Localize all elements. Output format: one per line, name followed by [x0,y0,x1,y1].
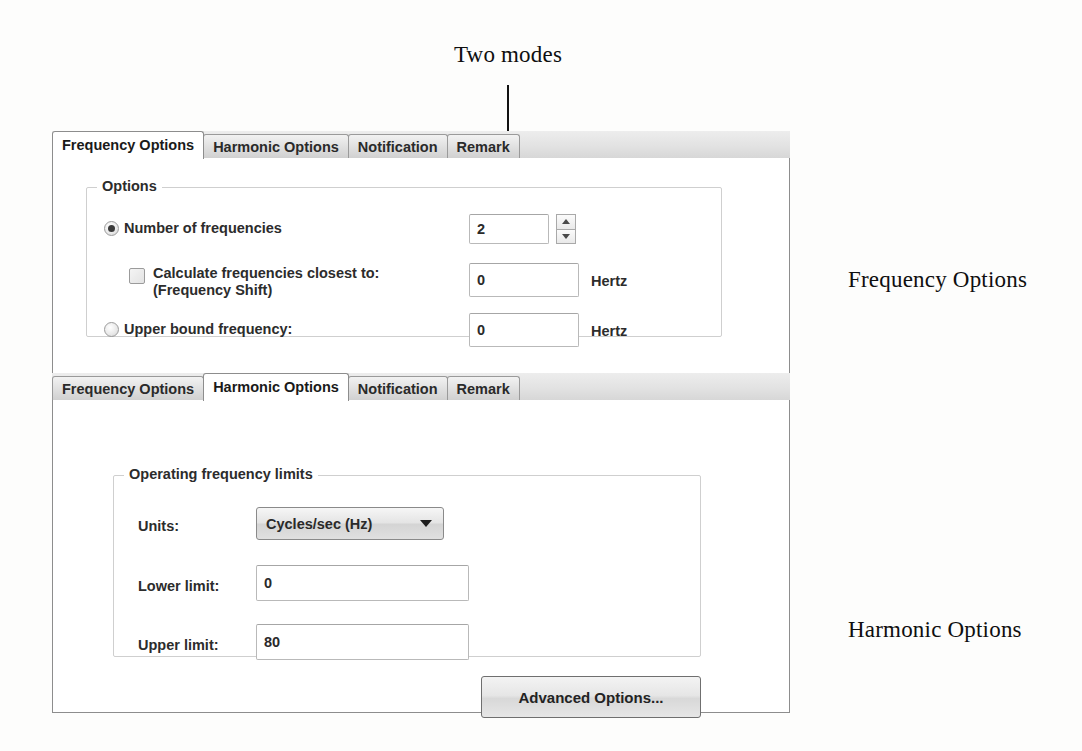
chevron-up-icon [562,219,570,224]
annotation-two-modes: Two modes [454,42,562,68]
frequency-options-dialog-panel: Frequency Options Harmonic Options Notif… [52,131,790,373]
radio-selected-dot [108,225,115,232]
tab-notification[interactable]: Notification [348,376,448,401]
frequency-panel-tabstrip: Frequency Options Harmonic Options Notif… [52,131,790,159]
units-dropdown[interactable]: Cycles/sec (Hz) [256,507,444,540]
operating-frequency-limits-title: Operating frequency limits [124,466,318,482]
harmonic-panel-body: Operating frequency limits Units: Cycles… [52,400,790,713]
checkbox-calculate-frequencies-closest-to[interactable] [129,268,145,284]
harmonic-options-dialog-panel: Frequency Options Harmonic Options Notif… [52,373,790,713]
label-line-1: Calculate frequencies closest to: [153,265,379,281]
tab-frequency-options[interactable]: Frequency Options [52,376,204,401]
tab-notification[interactable]: Notification [348,134,448,159]
number-of-frequencies-spinner[interactable] [556,214,576,244]
spinner-increment-button[interactable] [556,214,576,230]
label-line-2: (Frequency Shift) [153,282,272,298]
label-upper-bound-frequency: Upper bound frequency: [124,321,292,338]
tabstrip-filler [519,375,790,401]
annotation-frequency-options: Frequency Options [848,267,1027,293]
options-groupbox-title: Options [97,178,162,194]
annotation-harmonic-options: Harmonic Options [848,617,1022,643]
tab-remark[interactable]: Remark [447,376,520,401]
tabstrip-filler [519,133,790,159]
number-of-frequencies-input[interactable]: 2 [469,214,549,244]
label-hertz-upper-bound: Hertz [591,323,627,340]
label-upper-limit: Upper limit: [138,637,219,654]
tab-remark[interactable]: Remark [447,134,520,159]
lower-limit-input[interactable]: 0 [256,565,469,601]
label-hertz-frequency-shift: Hertz [591,273,627,290]
label-number-of-frequencies: Number of frequencies [124,220,282,237]
units-dropdown-value: Cycles/sec (Hz) [266,516,372,532]
upper-limit-input[interactable]: 80 [256,624,469,660]
radio-number-of-frequencies[interactable] [104,221,119,236]
label-units: Units: [138,518,179,535]
tab-harmonic-options[interactable]: Harmonic Options [203,134,349,159]
label-calculate-frequencies-closest-to: Calculate frequencies closest to: (Frequ… [153,265,379,299]
frequency-shift-input[interactable]: 0 [469,263,579,297]
chevron-down-icon [562,234,570,239]
chevron-down-icon [420,520,432,527]
options-groupbox: Options [86,187,722,337]
radio-upper-bound-frequency[interactable] [104,322,119,337]
frequency-panel-body: Options Number of frequencies 2 Calculat… [52,158,790,373]
spinner-decrement-button[interactable] [556,230,576,245]
upper-bound-frequency-input[interactable]: 0 [469,313,579,347]
label-lower-limit: Lower limit: [138,578,219,595]
tab-frequency-options[interactable]: Frequency Options [52,131,204,159]
tab-harmonic-options[interactable]: Harmonic Options [203,373,349,401]
harmonic-panel-tabstrip: Frequency Options Harmonic Options Notif… [52,373,790,401]
advanced-options-button[interactable]: Advanced Options... [481,676,701,718]
